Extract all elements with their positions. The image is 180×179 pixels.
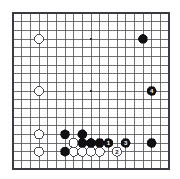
- stone-disc: [34, 130, 43, 139]
- white-stone[interactable]: [34, 86, 43, 95]
- black-stone[interactable]: [138, 34, 147, 43]
- stone-disc: [69, 147, 78, 156]
- stone-disc: [78, 130, 87, 139]
- go-board-container[interactable]: 4312: [0, 0, 180, 179]
- stone-disc: [86, 138, 95, 147]
- white-stone[interactable]: [34, 147, 43, 156]
- white-stone[interactable]: [69, 147, 78, 156]
- white-stone[interactable]: [78, 147, 87, 156]
- stone-disc: [95, 138, 104, 147]
- white-stone[interactable]: 2: [112, 147, 121, 156]
- stone-disc: [138, 34, 147, 43]
- stone-disc: [95, 147, 104, 156]
- star-point: [90, 38, 93, 41]
- stone-disc: [78, 147, 87, 156]
- black-stone[interactable]: [60, 147, 69, 156]
- white-stone[interactable]: [95, 147, 104, 156]
- black-stone[interactable]: [95, 138, 104, 147]
- white-stone[interactable]: [34, 130, 43, 139]
- stone-disc: [69, 138, 78, 147]
- black-stone[interactable]: 4: [147, 86, 156, 95]
- stone-disc: [78, 138, 87, 147]
- stone-disc: [34, 86, 43, 95]
- white-stone[interactable]: [86, 147, 95, 156]
- black-stone[interactable]: [78, 130, 87, 139]
- stone-disc: [86, 147, 95, 156]
- black-stone[interactable]: [86, 138, 95, 147]
- stone-disc: [34, 34, 43, 43]
- stone-disc: [60, 147, 69, 156]
- star-point: [90, 90, 93, 93]
- go-diagram-root: 4312: [0, 0, 180, 179]
- stone-disc: [147, 138, 156, 147]
- black-stone[interactable]: 1: [104, 138, 113, 147]
- black-stone[interactable]: [147, 138, 156, 147]
- stone-disc: [34, 147, 43, 156]
- white-stone[interactable]: [34, 34, 43, 43]
- black-stone[interactable]: [78, 138, 87, 147]
- white-stone[interactable]: [69, 138, 78, 147]
- black-stone[interactable]: [60, 130, 69, 139]
- black-stone[interactable]: 3: [121, 138, 130, 147]
- stone-disc: [60, 130, 69, 139]
- go-board-canvas[interactable]: 4312: [0, 0, 180, 179]
